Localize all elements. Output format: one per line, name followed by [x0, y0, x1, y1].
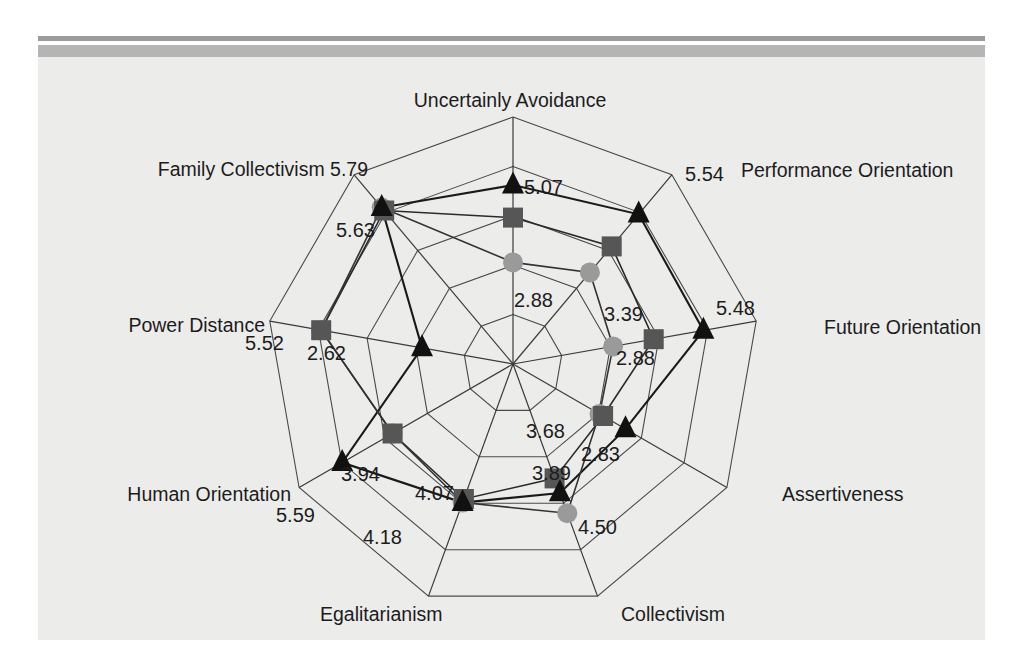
axis-label-performance-orientation: Performance Orientation [741, 159, 953, 181]
value-label-co-circle: 4.50 [578, 516, 617, 538]
value-label-eg-square: 4.07 [415, 482, 454, 504]
chart-panel: Uncertainly Avoidance Performance Orient… [38, 57, 985, 640]
value-label-as-triangle: 3.68 [526, 420, 565, 442]
value-label-pd-triangle: 2.62 [307, 342, 346, 364]
value-label-ua-triangle: 5.07 [524, 176, 563, 198]
axis-label-human-orientation: Human Orientation [127, 483, 291, 505]
radar-text-layer: Uncertainly Avoidance Performance Orient… [38, 57, 985, 640]
axis-label-uncertainty-avoidance: Uncertainly Avoidance [414, 89, 607, 111]
figure-page: Uncertainly Avoidance Performance Orient… [0, 0, 1020, 666]
axis-label-egalitarianism: Egalitarianism [320, 603, 442, 625]
value-label-pd-circle: 5.52 [245, 332, 284, 354]
axis-label-family-collectivism: Family Collectivism 5.79 [158, 158, 368, 180]
value-label-po-triangle: 5.54 [685, 163, 724, 185]
value-label-ua-circle: 2.88 [514, 289, 553, 311]
value-label-eg-triangle: 4.18 [363, 526, 402, 548]
header-rule-thick [38, 45, 985, 57]
value-label-fc-square: 5.63 [336, 219, 375, 241]
value-label-fo-triangle: 5.48 [716, 297, 755, 319]
value-label-ho-square: 3.94 [341, 463, 380, 485]
axis-label-future-orientation: Future Orientation [824, 316, 981, 338]
header-rule-thin [38, 36, 985, 41]
value-label-fo-circle: 2.88 [616, 347, 655, 369]
value-label-ho-triangle: 5.59 [276, 504, 315, 526]
value-label-as-circle: 2.83 [581, 443, 620, 465]
axis-label-collectivism: Collectivism [621, 603, 725, 625]
value-label-co-triangle: 3.89 [532, 462, 571, 484]
axis-label-assertiveness: Assertiveness [782, 483, 904, 505]
value-label-po-circle: 3.39 [604, 303, 643, 325]
